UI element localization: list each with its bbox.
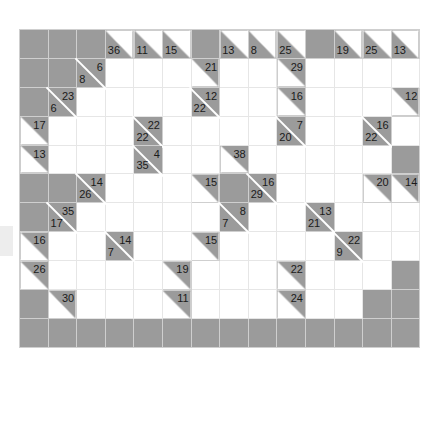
entry-cell[interactable] [220,290,249,319]
entry-cell[interactable] [277,145,306,174]
entry-cell[interactable] [134,87,163,116]
block-cell [334,318,363,347]
entry-cell[interactable] [162,203,191,232]
entry-cell[interactable] [334,203,363,232]
entry-cell[interactable] [363,58,392,87]
entry-cell[interactable] [134,203,163,232]
down-clue-number: 26 [79,189,91,200]
entry-cell[interactable] [48,232,77,261]
down-clue-number: 7 [108,247,114,258]
down-clue-number: 25 [365,45,377,56]
entry-cell[interactable] [105,87,134,116]
entry-cell[interactable] [305,145,334,174]
entry-cell[interactable] [48,116,77,145]
entry-cell[interactable] [305,261,334,290]
clue-cell: 12 [391,87,420,116]
entry-cell[interactable] [220,232,249,261]
entry-cell[interactable] [305,174,334,203]
entry-cell[interactable] [191,116,220,145]
entry-cell[interactable] [191,261,220,290]
entry-cell[interactable] [277,203,306,232]
entry-cell[interactable] [363,232,392,261]
entry-cell[interactable] [105,290,134,319]
entry-cell[interactable] [162,58,191,87]
entry-cell[interactable] [162,145,191,174]
entry-cell[interactable] [105,58,134,87]
entry-cell[interactable] [305,87,334,116]
entry-cell[interactable] [77,145,106,174]
entry-cell[interactable] [248,232,277,261]
entry-cell[interactable] [391,203,420,232]
clue-cell: 1321 [305,203,334,232]
entry-cell[interactable] [48,261,77,290]
across-clue-number: 15 [205,235,217,246]
entry-cell[interactable] [334,116,363,145]
entry-cell[interactable] [77,232,106,261]
clue-cell: 19 [162,261,191,290]
entry-cell[interactable] [77,116,106,145]
entry-cell[interactable] [248,261,277,290]
across-clue-number: 35 [62,206,74,217]
entry-cell[interactable] [162,116,191,145]
entry-cell[interactable] [105,116,134,145]
entry-cell[interactable] [277,232,306,261]
entry-cell[interactable] [48,145,77,174]
entry-cell[interactable] [248,87,277,116]
across-clue-number: 14 [119,235,131,246]
entry-cell[interactable] [220,116,249,145]
entry-cell[interactable] [248,145,277,174]
entry-cell[interactable] [162,174,191,203]
entry-cell[interactable] [334,174,363,203]
entry-cell[interactable] [105,174,134,203]
kakuro-grid[interactable]: 3611151382519251368212923612221612172222… [19,29,420,348]
entry-cell[interactable] [391,232,420,261]
entry-cell[interactable] [134,174,163,203]
entry-cell[interactable] [191,203,220,232]
clue-cell: 29 [277,58,306,87]
entry-cell[interactable] [363,261,392,290]
entry-cell[interactable] [134,58,163,87]
entry-cell[interactable] [77,261,106,290]
entry-cell[interactable] [334,145,363,174]
entry-cell[interactable] [105,261,134,290]
entry-cell[interactable] [134,290,163,319]
entry-cell[interactable] [334,87,363,116]
entry-cell[interactable] [220,87,249,116]
entry-cell[interactable] [191,290,220,319]
entry-cell[interactable] [77,290,106,319]
entry-cell[interactable] [305,290,334,319]
entry-cell[interactable] [134,261,163,290]
entry-cell[interactable] [305,58,334,87]
entry-cell[interactable] [105,203,134,232]
entry-cell[interactable] [391,58,420,87]
entry-cell[interactable] [305,232,334,261]
down-clue-number: 25 [279,45,291,56]
clue-cell: 36 [105,30,134,59]
entry-cell[interactable] [134,232,163,261]
entry-cell[interactable] [191,145,220,174]
entry-cell[interactable] [162,232,191,261]
entry-cell[interactable] [363,87,392,116]
entry-cell[interactable] [363,203,392,232]
entry-cell[interactable] [363,145,392,174]
kakuro-row: 14261516292014 [20,174,420,203]
entry-cell[interactable] [305,116,334,145]
entry-cell[interactable] [248,203,277,232]
entry-cell[interactable] [248,290,277,319]
entry-cell[interactable] [220,261,249,290]
entry-cell[interactable] [277,174,306,203]
entry-cell[interactable] [77,87,106,116]
entry-cell[interactable] [334,58,363,87]
entry-cell[interactable] [391,116,420,145]
entry-cell[interactable] [248,116,277,145]
entry-cell[interactable] [334,261,363,290]
entry-cell[interactable] [162,87,191,116]
entry-cell[interactable] [77,203,106,232]
block-cell [391,145,420,174]
entry-cell[interactable] [334,290,363,319]
across-clue-number: 22 [148,120,160,131]
entry-cell[interactable] [220,58,249,87]
entry-cell[interactable] [105,145,134,174]
clue-cell: 20 [363,174,392,203]
entry-cell[interactable] [248,58,277,87]
